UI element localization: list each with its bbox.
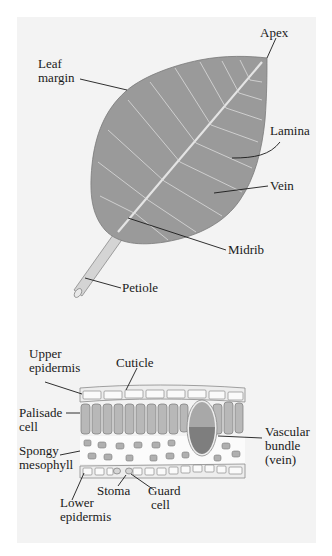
label-vascular-line2: bundle [265, 439, 300, 453]
label-lower-epidermis-line2: epidermis [60, 510, 111, 524]
label-vein: Vein [270, 179, 294, 193]
label-vascular-line3: (vein) [265, 453, 296, 467]
label-apex: Apex [260, 26, 288, 40]
label-palisade-line2: cell [19, 420, 38, 434]
label-stoma: Stoma [97, 484, 130, 498]
label-upper-epidermis-line1: Upper [29, 347, 62, 361]
label-spongy-line1: Spongy [19, 444, 59, 458]
label-vascular-line1: Vascular [265, 425, 310, 439]
label-leaf-margin-line1: Leaf [38, 57, 62, 71]
label-cuticle: Cuticle [116, 356, 154, 370]
label-lamina: Lamina [270, 124, 310, 138]
leaf-illustration [73, 56, 267, 298]
label-spongy-line2: mesophyll [19, 458, 73, 472]
label-upper-epidermis-line2: epidermis [29, 361, 80, 375]
label-midrib: Midrib [228, 243, 264, 257]
label-guard-cell-line2: cell [151, 498, 170, 512]
label-lower-epidermis-line1: Lower [60, 496, 94, 510]
leaf-cross-section [80, 385, 245, 478]
label-guard-cell-line1: Guard [148, 484, 181, 498]
label-palisade-line1: Palisade [19, 406, 62, 420]
label-leaf-margin-line2: margin [38, 71, 75, 85]
label-petiole: Petiole [122, 281, 158, 295]
